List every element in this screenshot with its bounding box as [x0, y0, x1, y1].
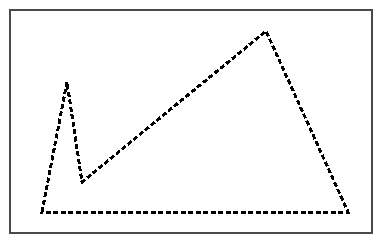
outer-border: [10, 10, 372, 233]
figure-canvas: [0, 0, 387, 245]
line-drawing-svg: [0, 0, 387, 245]
